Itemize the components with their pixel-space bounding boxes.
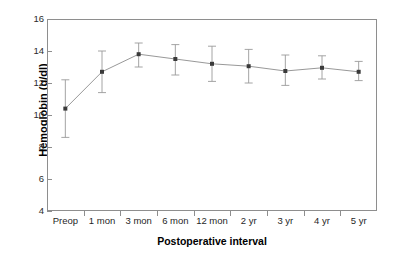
x-tick-mark — [120, 211, 121, 216]
data-point-marker — [210, 62, 214, 66]
x-tick-mark — [304, 211, 305, 216]
x-tick-mark — [340, 211, 341, 216]
y-axis-tick-labels: 46810121416 — [18, 0, 44, 258]
y-tick-label: 4 — [22, 206, 44, 216]
x-tick-label: 5 yr — [336, 216, 382, 226]
data-point-marker — [357, 70, 361, 74]
x-tick-mark — [157, 211, 158, 216]
y-tick-mark — [47, 179, 52, 180]
data-point-marker — [100, 70, 104, 74]
data-point-marker — [247, 64, 251, 68]
x-axis-title: Postoperative interval — [47, 235, 377, 247]
data-point-marker — [63, 107, 67, 111]
y-tick-label: 12 — [22, 78, 44, 88]
data-point-group — [318, 56, 326, 79]
y-tick-label: 16 — [22, 14, 44, 24]
data-point-marker — [137, 52, 141, 56]
data-point-marker — [320, 66, 324, 70]
y-tick-label: 10 — [22, 110, 44, 120]
y-tick-mark — [47, 19, 52, 20]
y-tick-mark — [47, 211, 52, 212]
y-tick-mark — [47, 115, 52, 116]
data-point-group — [98, 51, 106, 93]
x-tick-mark — [267, 211, 268, 216]
y-tick-label: 8 — [22, 142, 44, 152]
y-tick-mark — [47, 83, 52, 84]
data-point-marker — [283, 69, 287, 73]
series-layer — [47, 19, 377, 211]
y-tick-label: 6 — [22, 174, 44, 184]
y-tick-mark — [47, 51, 52, 52]
data-point-marker — [173, 57, 177, 61]
y-tick-mark — [47, 147, 52, 148]
x-tick-mark — [194, 211, 195, 216]
x-tick-mark — [230, 211, 231, 216]
y-tick-label: 14 — [22, 46, 44, 56]
hemoglobin-line-chart: Hemoglobin (g/dl) 46810121416 Postoperat… — [0, 0, 394, 258]
data-point-group — [355, 61, 363, 80]
x-tick-mark — [84, 211, 85, 216]
data-point-group — [61, 80, 69, 138]
